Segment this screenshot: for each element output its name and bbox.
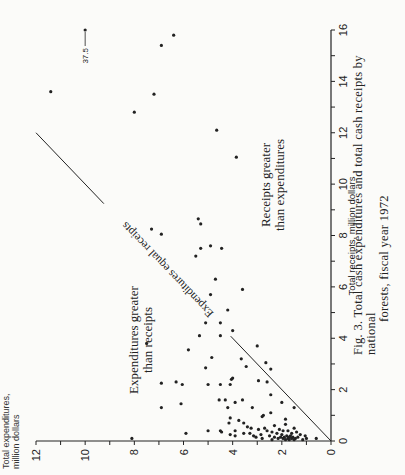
- data-point: [199, 222, 202, 225]
- data-point: [194, 254, 197, 257]
- data-point: [250, 427, 253, 430]
- data-point: [275, 432, 278, 435]
- data-point: [265, 380, 268, 383]
- data-point: [218, 398, 221, 401]
- region-upper-label-2: than receipts: [140, 307, 155, 373]
- data-point: [215, 129, 218, 132]
- data-point: [84, 28, 87, 31]
- y-axis-label-line2: million dollars: [12, 269, 22, 469]
- data-point: [273, 436, 276, 439]
- data-point: [293, 438, 296, 441]
- data-point: [220, 430, 223, 433]
- data-point: [280, 401, 283, 404]
- data-point: [278, 428, 281, 431]
- data-point: [281, 429, 284, 432]
- data-point: [220, 247, 223, 250]
- data-point: [49, 90, 52, 93]
- data-point: [237, 419, 240, 422]
- data-point: [231, 329, 234, 332]
- y-tick-label: 6: [178, 449, 190, 455]
- data-point: [270, 430, 273, 433]
- data-point: [301, 438, 304, 441]
- data-point: [199, 247, 202, 250]
- x-tick-label: 16: [337, 24, 349, 36]
- data-point: [257, 428, 260, 431]
- data-point: [284, 438, 287, 441]
- data-point: [184, 432, 187, 435]
- data-point: [268, 434, 271, 437]
- data-point: [226, 308, 229, 311]
- equality-line: [36, 133, 104, 204]
- data-point: [133, 111, 136, 114]
- data-point: [172, 34, 175, 37]
- data-point: [210, 356, 213, 359]
- data-point: [240, 357, 243, 360]
- data-point: [315, 437, 318, 440]
- data-point: [234, 429, 237, 432]
- data-point: [219, 334, 222, 337]
- y-tick-label: 4: [227, 449, 239, 455]
- data-point: [241, 398, 244, 401]
- data-point: [187, 348, 190, 351]
- data-point: [251, 406, 254, 409]
- data-point: [234, 434, 237, 437]
- data-point: [229, 383, 232, 386]
- data-point: [299, 433, 302, 436]
- data-point: [257, 379, 260, 382]
- region-upper-label-1: Expenditures greater: [126, 285, 141, 394]
- data-point: [261, 415, 264, 418]
- data-point: [224, 398, 227, 401]
- figure-caption: Fig. 3. Total cash expenditures and tota…: [352, 15, 391, 355]
- data-point: [219, 321, 222, 324]
- data-point: [175, 380, 178, 383]
- caption-line2: forests, fiscal year 1972: [378, 15, 391, 355]
- data-point: [261, 437, 264, 440]
- region-lower-label-2: than expenditures: [272, 139, 287, 231]
- data-point: [288, 438, 291, 441]
- data-point: [197, 217, 200, 220]
- y-tick-label: 8: [128, 449, 140, 455]
- data-point: [273, 424, 276, 427]
- y-tick-label: 0: [325, 449, 337, 455]
- data-point: [130, 437, 133, 440]
- data-point: [241, 288, 244, 291]
- x-tick-label: 14: [337, 75, 349, 87]
- data-point: [264, 361, 267, 364]
- data-point: [209, 293, 212, 296]
- data-point: [152, 93, 155, 96]
- data-point: [209, 244, 212, 247]
- data-point: [230, 378, 233, 381]
- data-point: [219, 383, 222, 386]
- caption-line1: Fig. 3. Total cash expenditures and tota…: [352, 15, 378, 355]
- data-point: [269, 367, 272, 370]
- data-point: [270, 438, 273, 441]
- rotated-figure: 0246810121416024681012 Total receipts, m…: [0, 0, 405, 475]
- x-tick-label: 12: [337, 127, 349, 139]
- data-point: [259, 433, 262, 436]
- axes: 0246810121416024681012: [30, 24, 349, 461]
- data-point: [160, 382, 163, 385]
- data-point: [198, 334, 201, 337]
- data-point: [286, 429, 289, 432]
- y-tick-label: 2: [276, 449, 288, 455]
- data-point: [284, 418, 287, 421]
- data-point: [235, 156, 238, 159]
- data-point: [269, 393, 272, 396]
- data-point: [305, 437, 308, 440]
- data-point: [242, 421, 245, 424]
- data-point: [295, 430, 298, 433]
- data-point: [293, 406, 296, 409]
- data-point: [204, 366, 207, 369]
- data-point: [160, 406, 163, 409]
- scatter-chart: 0246810121416024681012 Total receipts, m…: [0, 0, 405, 475]
- data-point: [160, 233, 163, 236]
- data-point: [234, 401, 237, 404]
- data-point: [245, 365, 248, 368]
- offscale-value-label: 37.5: [81, 47, 90, 63]
- data-point: [277, 437, 280, 440]
- data-point: [248, 432, 251, 435]
- data-point: [150, 227, 153, 230]
- region-lower-label-1: Receipts greater: [258, 142, 273, 227]
- data-point: [206, 429, 209, 432]
- data-point: [254, 436, 257, 439]
